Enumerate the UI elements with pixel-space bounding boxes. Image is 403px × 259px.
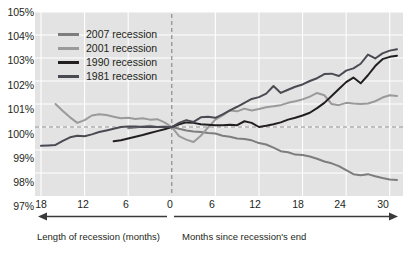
series-line-2007 xyxy=(128,126,397,180)
y-axis-tick-105: 105% xyxy=(0,7,34,17)
x-axis-tick-neg18: 18 xyxy=(29,199,53,210)
x-axis-tick-6: 6 xyxy=(200,199,224,210)
legend-item-1990: 1990 recession xyxy=(58,55,157,69)
x-axis-caption-left: Length of recession (months) xyxy=(37,231,160,242)
x-axis-tick-30: 30 xyxy=(371,199,395,210)
x-axis-tick-neg12: 12 xyxy=(71,199,95,210)
legend-swatch-1990 xyxy=(58,61,79,64)
legend-item-1981: 1981 recession xyxy=(58,69,157,83)
x-axis-tick-0: 0 xyxy=(158,199,182,210)
x-axis-tick-neg6: 6 xyxy=(114,199,138,210)
legend: 2007 recession 2001 recession 1990 reces… xyxy=(56,24,164,87)
legend-item-2001: 2001 recession xyxy=(58,41,157,55)
legend-swatch-2007 xyxy=(58,33,79,36)
legend-swatch-1981 xyxy=(58,75,79,78)
y-axis-tick-104: 104% xyxy=(0,31,34,41)
legend-label-1990: 1990 recession xyxy=(86,56,157,68)
legend-label-1981: 1981 recession xyxy=(86,70,157,82)
legend-item-2007: 2007 recession xyxy=(58,27,157,41)
x-axis-caption-right: Months since recession's end xyxy=(182,231,306,242)
x-axis-tick-18: 18 xyxy=(286,199,310,210)
y-axis-tick-102: 102% xyxy=(0,80,34,90)
x-axis-tick-24: 24 xyxy=(328,199,352,210)
recession-comparison-chart: 105% 104% 103% 102% 101% 100% 99% 98% 97… xyxy=(0,0,403,259)
legend-label-2007: 2007 recession xyxy=(86,28,157,40)
y-axis-tick-98: 98% xyxy=(0,177,34,187)
legend-label-2001: 2001 recession xyxy=(86,42,157,54)
y-axis-tick-99: 99% xyxy=(0,153,34,163)
x-axis-tick-12: 12 xyxy=(243,199,267,210)
y-axis-tick-100: 100% xyxy=(0,129,34,139)
axis-arrows xyxy=(0,210,403,228)
legend-swatch-2001 xyxy=(58,47,79,50)
y-axis-tick-103: 103% xyxy=(0,55,34,65)
y-axis-tick-101: 101% xyxy=(0,104,34,114)
